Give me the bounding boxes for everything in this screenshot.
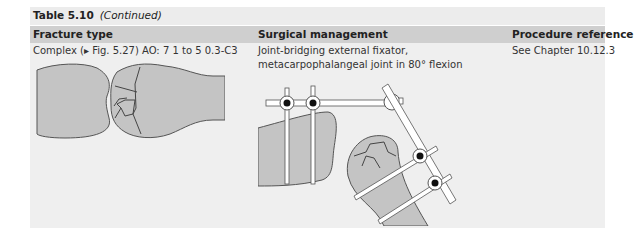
- external-fixator-illustration-icon: [258, 76, 458, 226]
- procedure-reference-cell: See Chapter 10.12.3: [512, 44, 615, 58]
- fracture-illustration-icon: [35, 62, 225, 140]
- surgical-management-line2: metacarpophalangeal joint in 80° flexion: [258, 58, 463, 72]
- header-procedure-reference: Procedure reference: [512, 28, 634, 40]
- fracture-type-cell: Complex (▸ Fig. 5.27) AO: 7 1 to 5 0.3-C…: [33, 44, 238, 58]
- header-fracture-type: Fracture type: [33, 28, 113, 40]
- header-surgical-management: Surgical management: [258, 28, 388, 40]
- table-title: Table 5.10(Continued): [33, 9, 162, 21]
- table-title-bar: Table 5.10(Continued): [30, 7, 605, 26]
- table: Table 5.10(Continued) Fracture type Surg…: [30, 7, 605, 228]
- surgical-management-line1: Joint-bridging external fixator,: [258, 44, 408, 58]
- table-number: Table 5.10: [33, 9, 94, 21]
- table-header-row: Fracture type Surgical management Proced…: [30, 26, 605, 43]
- table-continued-label: (Continued): [100, 9, 162, 21]
- table-row: Complex (▸ Fig. 5.27) AO: 7 1 to 5 0.3-C…: [30, 44, 605, 228]
